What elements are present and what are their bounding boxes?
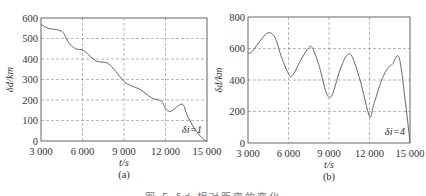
svg-text:15 000: 15 000: [396, 148, 425, 159]
svg-text:6 000: 6 000: [277, 148, 301, 159]
svg-text:6 000: 6 000: [71, 146, 95, 157]
svg-text:600: 600: [22, 13, 38, 24]
svg-text:0: 0: [33, 136, 38, 147]
line-chart-b: 02004006008003 0006 0009 00012 00015 000…: [213, 0, 426, 196]
svg-text:9 000: 9 000: [112, 146, 136, 157]
y-axis-ticks: 0200400600800: [229, 12, 245, 149]
svg-text:400: 400: [229, 75, 245, 86]
figure-caption: 图 5 δd 相对距离的变化: [0, 189, 426, 196]
svg-text:12 000: 12 000: [355, 148, 384, 159]
svg-text:12 000: 12 000: [151, 146, 180, 157]
x-axis-ticks: 3 0006 0009 00012 00015 000: [29, 146, 221, 157]
y-axis-ticks: 0100200300400500600: [22, 13, 38, 147]
svg-text:400: 400: [22, 54, 38, 65]
series-annotation: δi=4: [385, 126, 406, 137]
svg-text:500: 500: [22, 33, 38, 44]
chart-panel-b: 02004006008003 0006 0009 00012 00015 000…: [213, 0, 426, 196]
svg-text:200: 200: [22, 95, 38, 106]
svg-text:9 000: 9 000: [317, 148, 341, 159]
svg-text:800: 800: [229, 12, 245, 23]
x-axis-label: t/s: [119, 157, 129, 168]
series-annotation: δi=1: [182, 124, 202, 135]
svg-text:3 000: 3 000: [29, 146, 53, 157]
svg-text:600: 600: [229, 43, 245, 54]
x-axis-ticks: 3 0006 0009 00012 00015 000: [236, 148, 424, 159]
panel-label: (a): [118, 169, 130, 181]
svg-text:0: 0: [240, 138, 245, 149]
chart-panel-a: 01002003004005006003 0006 0009 00012 000…: [0, 0, 213, 196]
y-axis-label: δd/km: [213, 67, 224, 93]
svg-text:300: 300: [22, 74, 38, 85]
panel-label: (b): [323, 171, 336, 183]
svg-text:3 000: 3 000: [236, 148, 260, 159]
x-axis-label: t/s: [324, 159, 334, 170]
svg-text:100: 100: [22, 115, 38, 126]
line-chart-a: 01002003004005006003 0006 0009 00012 000…: [0, 0, 213, 196]
gridlines: [248, 17, 410, 143]
y-axis-label: δd/km: [4, 66, 15, 92]
svg-text:200: 200: [229, 106, 245, 117]
